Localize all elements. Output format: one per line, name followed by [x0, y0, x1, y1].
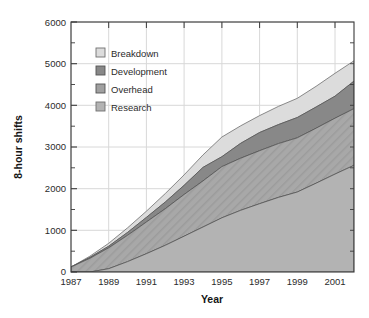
x-tick-label-1989: 1989 — [98, 276, 119, 287]
legend-swatch-breakdown — [96, 48, 105, 57]
x-tick-label-2001: 2001 — [324, 276, 345, 287]
x-tick-label-1999: 1999 — [287, 276, 308, 287]
x-tick-labels: 1987 1989 1991 1993 1995 1997 1999 2001 — [60, 276, 345, 287]
y-tick-label-4000: 4000 — [45, 100, 66, 111]
stacked-area-chart: 0 1000 2000 3000 4000 5000 6000 1987 198… — [0, 0, 369, 318]
x-tick-label-1987: 1987 — [60, 276, 81, 287]
legend-swatch-development — [96, 66, 105, 75]
y-tick-labels: 0 1000 2000 3000 4000 5000 6000 — [45, 17, 66, 278]
x-tick-label-1997: 1997 — [249, 276, 270, 287]
legend-swatch-overhead — [96, 84, 105, 93]
y-tick-label-3000: 3000 — [45, 141, 66, 152]
y-axis-title: 8-hour shifts — [12, 115, 24, 179]
legend-item-research[interactable]: Research — [96, 102, 152, 113]
x-tick-label-1995: 1995 — [211, 276, 232, 287]
x-tick-label-1993: 1993 — [174, 276, 195, 287]
y-tick-label-2000: 2000 — [45, 183, 66, 194]
legend-label-development: Development — [111, 66, 167, 77]
chart-canvas: 0 1000 2000 3000 4000 5000 6000 1987 198… — [0, 0, 369, 318]
legend-label-breakdown: Breakdown — [111, 48, 159, 59]
legend-item-overhead[interactable]: Overhead — [96, 84, 153, 95]
y-tick-label-1000: 1000 — [45, 225, 66, 236]
legend-label-overhead: Overhead — [111, 84, 153, 95]
legend-item-breakdown[interactable]: Breakdown — [96, 48, 159, 59]
x-tick-label-1991: 1991 — [136, 276, 157, 287]
legend-label-research: Research — [111, 102, 152, 113]
x-axis-title: Year — [201, 293, 223, 305]
y-tick-label-5000: 5000 — [45, 58, 66, 69]
legend-swatch-research — [96, 102, 105, 111]
y-tick-label-6000: 6000 — [45, 17, 66, 28]
